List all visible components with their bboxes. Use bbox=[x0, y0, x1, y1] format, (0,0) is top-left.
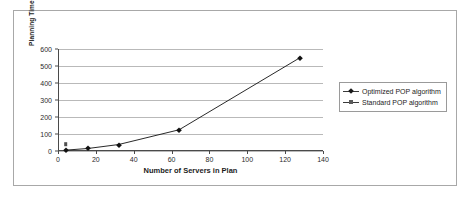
y-tick-label: 500 bbox=[40, 63, 52, 70]
legend: Optimized POP algorithm Standard POP alg… bbox=[339, 82, 447, 112]
x-axis-label: Number of Servers in Plan bbox=[58, 167, 323, 175]
figure-root: Planning Time (s) Number of Servers in P… bbox=[0, 0, 470, 199]
x-tick-mark bbox=[58, 151, 59, 154]
legend-item-standard[interactable]: Standard POP algorithm bbox=[343, 97, 441, 108]
chart-frame: Planning Time (s) Number of Servers in P… bbox=[13, 10, 457, 186]
legend-marker-square-icon bbox=[343, 98, 359, 107]
legend-marker-diamond-icon bbox=[343, 87, 359, 96]
y-tick-label: 300 bbox=[40, 97, 52, 104]
x-tick-label: 20 bbox=[92, 156, 100, 163]
y-tick-label: 600 bbox=[40, 46, 52, 53]
x-tick-label: 40 bbox=[130, 156, 138, 163]
x-tick-label: 80 bbox=[206, 156, 214, 163]
y-tick-label: 100 bbox=[40, 131, 52, 138]
legend-label: Standard POP algorithm bbox=[362, 99, 438, 106]
legend-label: Optimized POP algorithm bbox=[362, 88, 441, 95]
gridline bbox=[58, 151, 323, 152]
y-tick-label: 200 bbox=[40, 114, 52, 121]
x-tick-label: 120 bbox=[279, 156, 291, 163]
x-tick-mark bbox=[96, 151, 97, 154]
x-tick-mark bbox=[285, 151, 286, 154]
x-tick-label: 140 bbox=[317, 156, 329, 163]
plot-area: 0100200300400500600 020406080100120140 bbox=[58, 49, 323, 151]
x-tick-mark bbox=[247, 151, 248, 154]
y-axis-label: Planning Time (s) bbox=[29, 0, 36, 63]
y-tick-label: 400 bbox=[40, 80, 52, 87]
x-tick-mark bbox=[134, 151, 135, 154]
legend-item-optimized[interactable]: Optimized POP algorithm bbox=[343, 86, 441, 97]
x-tick-label: 0 bbox=[56, 156, 60, 163]
x-tick-label: 60 bbox=[168, 156, 176, 163]
series-lines bbox=[58, 49, 323, 151]
series-line bbox=[66, 58, 301, 151]
x-tick-mark bbox=[209, 151, 210, 154]
x-tick-label: 100 bbox=[241, 156, 253, 163]
x-tick-mark bbox=[172, 151, 173, 154]
x-tick-mark bbox=[323, 151, 324, 154]
y-tick-label: 0 bbox=[48, 148, 52, 155]
